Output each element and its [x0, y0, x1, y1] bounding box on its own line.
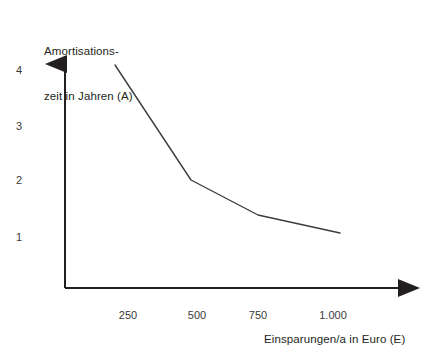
x-tick-label-750: 750	[228, 309, 288, 321]
y-tick-label-2: 2	[0, 174, 22, 186]
data-series-line	[115, 65, 340, 233]
y-axis-title-line-2: zeit in Jahren (A)	[44, 89, 133, 104]
y-tick-label-4: 4	[0, 64, 22, 76]
x-axis-title: Einsparungen/a in Euro (E)	[264, 332, 405, 347]
x-tick-label-250: 250	[98, 309, 158, 321]
y-axis-title: Amortisations- zeit in Jahren (A)	[44, 14, 133, 134]
chart-container: Amortisations- zeit in Jahren (A) Einspa…	[0, 0, 440, 360]
y-tick-label-1: 1	[0, 231, 22, 243]
x-tick-label-1000: 1.000	[303, 309, 363, 321]
y-tick-label-3: 3	[0, 120, 22, 132]
y-axis-title-line-1: Amortisations-	[44, 44, 133, 59]
x-tick-label-500: 500	[167, 309, 227, 321]
